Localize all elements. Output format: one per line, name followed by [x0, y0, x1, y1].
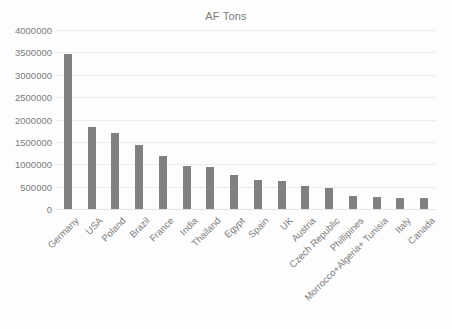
x-tick-label: Germany: [45, 215, 80, 250]
x-tick-label: Spain: [246, 215, 271, 240]
bar[interactable]: [278, 181, 286, 209]
bar[interactable]: [420, 198, 428, 209]
bar[interactable]: [135, 145, 143, 209]
y-tick-label: 1000000: [0, 159, 52, 170]
bar[interactable]: [373, 197, 381, 209]
x-tick-label: France: [147, 215, 176, 244]
y-tick-label: 0: [0, 204, 52, 215]
y-tick-label: 500000: [0, 181, 52, 192]
bar[interactable]: [88, 127, 96, 209]
bar[interactable]: [206, 167, 214, 209]
x-tick-label: UK: [277, 215, 294, 232]
chart-title: AF Tons: [0, 10, 452, 22]
y-tick-label: 2500000: [0, 92, 52, 103]
y-axis: 4000000350000030000002500000200000015000…: [0, 30, 52, 209]
x-tick-label: Poland: [99, 215, 128, 244]
gridline: [56, 30, 436, 31]
x-tick-label: Egypt: [222, 215, 247, 240]
bar-chart: AF Tons 40000003500000300000025000002000…: [0, 0, 452, 329]
bar[interactable]: [254, 180, 262, 209]
gridline: [56, 75, 436, 76]
gridline: [56, 120, 436, 121]
bar[interactable]: [301, 186, 309, 209]
bar[interactable]: [159, 156, 167, 209]
bar[interactable]: [349, 196, 357, 209]
x-axis: GermanyUSAPolandBrazilFranceIndiaThailan…: [56, 209, 452, 329]
bar[interactable]: [64, 54, 72, 209]
gridline: [56, 52, 436, 53]
y-tick-label: 2000000: [0, 114, 52, 125]
bar[interactable]: [111, 133, 119, 209]
y-tick-label: 1500000: [0, 136, 52, 147]
y-tick-label: 3000000: [0, 69, 52, 80]
plot-area: [56, 30, 436, 209]
bar[interactable]: [396, 198, 404, 209]
y-tick-label: 4000000: [0, 25, 52, 36]
bar[interactable]: [230, 175, 238, 209]
bar[interactable]: [325, 188, 333, 209]
gridline: [56, 97, 436, 98]
bar[interactable]: [183, 166, 191, 209]
y-tick-label: 3500000: [0, 47, 52, 58]
